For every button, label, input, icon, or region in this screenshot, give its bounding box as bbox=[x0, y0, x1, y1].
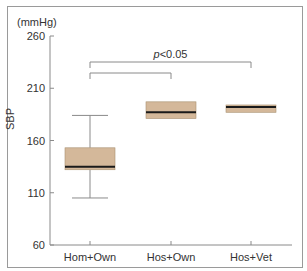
significance-bracket bbox=[90, 62, 251, 68]
x-tick-label: Hos+Own bbox=[147, 251, 196, 263]
significance-bracket bbox=[90, 73, 171, 79]
y-tick-label: 210 bbox=[27, 82, 45, 94]
y-tick-label: 60 bbox=[33, 239, 45, 251]
p-value-annotation: p<0.05 bbox=[153, 48, 188, 60]
x-tick-label: Hos+Vet bbox=[230, 251, 272, 263]
box bbox=[146, 102, 196, 119]
y-tick-label: 260 bbox=[27, 30, 45, 42]
box-plot: 60110160210260Hom+OwnHos+OwnHos+Vetp<0.0… bbox=[0, 0, 307, 271]
y-tick-label: 160 bbox=[27, 135, 45, 147]
x-tick-label: Hom+Own bbox=[64, 251, 116, 263]
y-tick-label: 110 bbox=[27, 187, 45, 199]
